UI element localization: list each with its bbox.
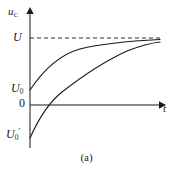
tick-label-u0-text: U xyxy=(11,81,20,95)
tick-label-u0-prime-text: U xyxy=(6,127,15,141)
origin-label: 0 xyxy=(19,97,25,109)
tick-label-u0-subscript: 0 xyxy=(20,87,24,96)
tick-label-u0: U0 xyxy=(11,82,24,95)
tick-label-u0-prime-mark: ′ xyxy=(19,127,21,136)
y-axis-label-text: u xyxy=(8,5,14,17)
curve-from-u0-prime xyxy=(30,42,160,138)
y-axis-label-subscript: C xyxy=(14,11,19,18)
curve-from-u0 xyxy=(30,40,160,91)
figure-caption: (a) xyxy=(0,152,173,163)
asymptote-label-u: U xyxy=(13,31,22,43)
x-axis-label: t xyxy=(163,103,166,114)
y-axis-arrow-icon xyxy=(26,7,33,14)
plot-canvas xyxy=(0,0,173,173)
tick-label-u0-prime: U0′ xyxy=(6,128,20,141)
figure-container: uC t U U0 0 U0′ (a) xyxy=(0,0,173,173)
y-axis-label: uC xyxy=(8,6,18,19)
